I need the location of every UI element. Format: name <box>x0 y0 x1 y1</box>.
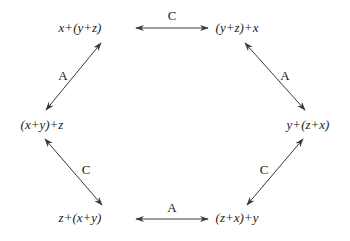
node-l: (x+y)+z <box>21 117 64 132</box>
node-tl: x+(y+z) <box>58 20 102 35</box>
edge-label: C <box>168 8 177 23</box>
edge-arrow-r-br <box>247 139 303 205</box>
node-tr: (y+z)+x <box>216 20 259 35</box>
edge-label: C <box>260 162 269 177</box>
edge-label: A <box>280 68 290 83</box>
node-bl: z+(x+y) <box>58 210 102 225</box>
node-r: y+(z+x) <box>285 117 330 132</box>
edge-label: C <box>82 162 91 177</box>
edge-label: A <box>167 200 177 215</box>
diagram-canvas: CAACCA x+(y+z)(y+z)+x(x+y)+zy+(z+x)z+(x+… <box>0 0 350 241</box>
edge-label: A <box>58 68 68 83</box>
hexagon-diagram: CAACCA x+(y+z)(y+z)+x(x+y)+zy+(z+x)z+(x+… <box>0 0 350 241</box>
node-br: (z+x)+y <box>216 210 259 225</box>
edge-arrow-l-bl <box>45 139 102 205</box>
edge-arrow-tl-l <box>46 43 101 110</box>
edge-arrow-tr-r <box>245 43 305 110</box>
